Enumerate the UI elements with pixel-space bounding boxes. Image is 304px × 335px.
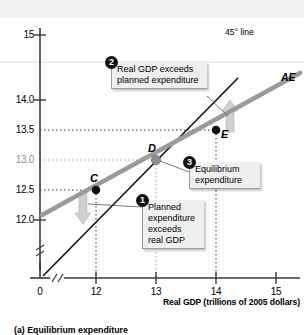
point-label-d: D [148, 142, 156, 154]
callout-3-line-1: Equilibrium [195, 164, 256, 175]
x-tick-label-14: 14 [204, 286, 228, 297]
x-tick-label-12: 12 [84, 286, 108, 297]
callout-1-line-1: Planned [148, 202, 200, 213]
y-tick-label-12-0: 12.0 [0, 214, 34, 225]
plot-area: 15 14.0 13.5 13.0 12.5 12.0 0 12 13 14 1… [0, 0, 304, 335]
data-point-c [92, 186, 101, 195]
x-axis-title: Real GDP (trillions of 2005 dollars) [0, 297, 300, 307]
y-tick-label-15: 15 [0, 29, 34, 40]
callout-2: Real GDP exceeds planned expenditure [111, 62, 207, 89]
callout-1-badge: 1 [136, 194, 149, 207]
callout-1: Planned expenditure exceeds real GDP [142, 200, 204, 249]
figure-equilibrium-expenditure: Aggregate planned expenditure (trillions… [0, 0, 304, 335]
line-45-label: 45° line [225, 27, 254, 37]
data-point-d [151, 155, 160, 164]
y-tick-label-13-5: 13.5 [0, 124, 34, 135]
callout-1-line-2: expenditure [148, 213, 200, 224]
callout-3: Equilibrium expenditure [189, 162, 260, 189]
callout-2-badge: 2 [105, 56, 118, 69]
y-tick-label-14: 14.0 [0, 94, 34, 105]
ae-curve [42, 73, 300, 215]
ae-curve-label: AE [281, 71, 296, 83]
x-tick-label-13: 13 [144, 286, 168, 297]
callout-2-line-2: planned expenditure [117, 75, 203, 86]
x-tick-label-15: 15 [264, 286, 288, 297]
point-label-e: E [221, 128, 228, 140]
data-point-e [212, 126, 221, 135]
callout-1-line-3: exceeds [148, 224, 200, 235]
y-tick-label-12-5: 12.5 [0, 184, 34, 195]
figure-caption: (a) Equilibrium expenditure [14, 325, 128, 335]
callout-1-line-4: real GDP [148, 235, 200, 246]
callout-3-badge: 3 [183, 156, 196, 169]
callout-3-line-2: expenditure [195, 175, 256, 186]
x-axis-break [52, 274, 63, 282]
x-tick-label-0: 0 [28, 286, 52, 297]
y-tick-label-13-0: 13.0 [0, 154, 34, 165]
callout-2-line-1: Real GDP exceeds [117, 64, 203, 75]
point-label-c: C [90, 172, 98, 184]
